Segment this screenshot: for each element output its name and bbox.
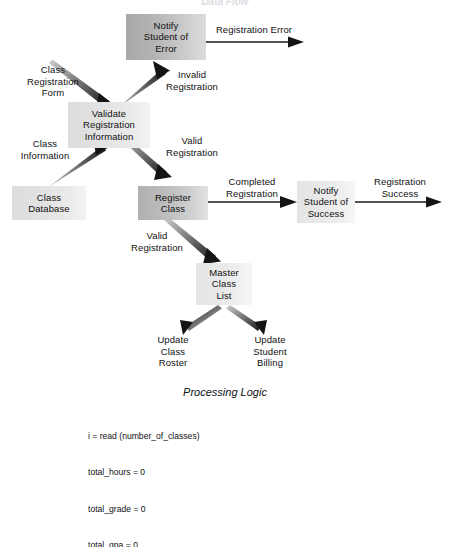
- node-line: List: [216, 290, 231, 301]
- node-register-class[interactable]: Register Class: [138, 186, 208, 220]
- node-line: Class: [161, 203, 185, 214]
- node-line: Notify: [154, 20, 179, 31]
- flow-line: Registration Error: [206, 24, 302, 36]
- flow-line: Success: [357, 188, 443, 200]
- flow-label-invalid-registration: Invalid Registration: [148, 69, 236, 92]
- flow-line: Registration: [113, 242, 201, 254]
- node-line: Validate: [92, 108, 126, 119]
- flow-line: Valid: [148, 135, 236, 147]
- node-line: Success: [308, 208, 345, 219]
- flow-line: Roster: [138, 357, 208, 369]
- node-line: Error: [155, 43, 177, 54]
- node-line: Student of: [304, 196, 348, 207]
- node-line: Registration: [83, 119, 135, 130]
- code-line: total_grade = 0: [88, 503, 326, 515]
- flow-label-class-information: Class Information: [4, 138, 86, 161]
- node-master-class-list[interactable]: Master Class List: [196, 263, 252, 305]
- flow-line: Registration: [10, 76, 96, 88]
- flow-line: Invalid: [148, 69, 236, 81]
- flow-line: Valid: [113, 230, 201, 242]
- flow-label-valid-registration-bottom: Valid Registration: [113, 230, 201, 253]
- arrow-master-to-update-roster: [180, 305, 222, 335]
- arrow-registration-error-out: [206, 37, 304, 48]
- flow-line: Completed: [208, 176, 296, 188]
- flow-line: Update: [235, 334, 305, 346]
- code-line: total_hours = 0: [88, 466, 326, 478]
- flow-line: Billing: [235, 357, 305, 369]
- flow-line: Form: [10, 87, 96, 99]
- node-line: Student of: [144, 31, 188, 42]
- node-line: Class: [212, 278, 236, 289]
- flow-label-valid-registration-top: Valid Registration: [148, 135, 236, 158]
- flow-line: Class: [138, 346, 208, 358]
- node-line: Register: [155, 192, 191, 203]
- flow-line: Registration: [357, 176, 443, 188]
- node-class-database[interactable]: Class Database: [12, 186, 86, 220]
- flow-line: Class: [10, 64, 96, 76]
- node-notify-success[interactable]: Notify Student of Success: [297, 181, 355, 223]
- flow-label-registration-error: Registration Error: [206, 24, 302, 36]
- node-line: Class: [37, 192, 61, 203]
- flow-line: Information: [4, 150, 86, 162]
- flow-line: Registration: [148, 147, 236, 159]
- node-line: Database: [28, 203, 69, 214]
- flow-label-completed-registration: Completed Registration: [208, 176, 296, 199]
- node-line: Notify: [314, 185, 339, 196]
- pseudocode-block: i = read (number_of_classes) total_hours…: [88, 406, 326, 547]
- node-line: Information: [85, 131, 134, 142]
- flow-label-registration-success: Registration Success: [357, 176, 443, 199]
- code-line: i = read (number_of_classes): [88, 430, 326, 442]
- arrow-master-to-update-billing: [226, 305, 267, 335]
- code-line: total_gpa = 0: [88, 539, 326, 547]
- flow-label-class-registration-form: Class Registration Form: [10, 64, 96, 99]
- flow-label-update-class-roster: Update Class Roster: [138, 334, 208, 369]
- flow-line: Update: [138, 334, 208, 346]
- flow-line: Registration: [208, 188, 296, 200]
- node-notify-error[interactable]: Notify Student of Error: [126, 14, 206, 60]
- dataflow-diagram-page: Data Flow: [0, 0, 450, 547]
- flow-line: Class: [4, 138, 86, 150]
- flow-label-update-student-billing: Update Student Billing: [235, 334, 305, 369]
- flow-line: Registration: [148, 81, 236, 93]
- processing-logic-title: Processing Logic: [0, 386, 450, 398]
- flow-line: Student: [235, 346, 305, 358]
- node-line: Master: [209, 267, 239, 278]
